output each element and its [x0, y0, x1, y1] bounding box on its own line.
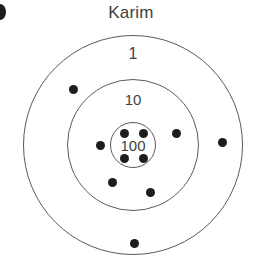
- hit-dot: [218, 138, 227, 147]
- ring-label-10: 10: [93, 92, 173, 107]
- hit-dot: [108, 178, 117, 187]
- hit-dot: [130, 239, 139, 248]
- hit-dot: [96, 141, 105, 150]
- hit-dot: [69, 85, 78, 94]
- hit-dot: [120, 129, 129, 138]
- hit-dot: [139, 154, 148, 163]
- hit-dot: [120, 154, 129, 163]
- target-figure: Karim 110100: [0, 0, 262, 275]
- hit-dot: [139, 129, 148, 138]
- ring-label-100: 100: [93, 138, 173, 153]
- hit-dot: [146, 188, 155, 197]
- page-title: Karim: [0, 3, 262, 23]
- ring-label-1: 1: [93, 46, 173, 62]
- hit-dot: [172, 129, 181, 138]
